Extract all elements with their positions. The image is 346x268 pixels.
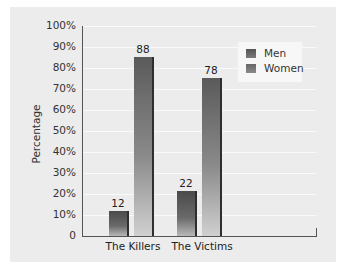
legend-item-women: Women [246, 62, 304, 74]
gridline-50 [82, 131, 316, 132]
y-tick-20: 20% [36, 187, 76, 199]
legend-swatch-men [246, 49, 256, 58]
legend-item-men: Men [246, 47, 286, 59]
y-axis-label: Percentage [30, 94, 42, 174]
label-killers-women: 88 [128, 43, 158, 55]
gridline-100 [82, 26, 316, 27]
y-tick-80: 80% [36, 61, 76, 73]
y-tick-40: 40% [36, 145, 76, 157]
bar-killers-men [109, 211, 129, 236]
category-killers: The Killers [98, 240, 168, 252]
y-tick-70: 70% [36, 82, 76, 94]
bar-victims-women [202, 78, 222, 236]
gridline-20 [82, 194, 316, 195]
y-tick-100: 100% [36, 19, 76, 31]
x-axis-end-tick [316, 228, 317, 237]
y-axis [82, 26, 83, 237]
y-tick-50: 50% [36, 124, 76, 136]
y-tick-10: 10% [36, 208, 76, 220]
legend-swatch-women [246, 64, 256, 73]
category-victims: The Victims [167, 240, 237, 252]
y-tick-0: 0 [36, 229, 76, 241]
y-tick-90: 90% [36, 40, 76, 52]
gridline-70 [82, 89, 316, 90]
label-victims-women: 78 [196, 64, 226, 76]
gridline-60 [82, 110, 316, 111]
label-victims-men: 22 [171, 177, 201, 189]
y-tick-30: 30% [36, 166, 76, 178]
x-axis [82, 236, 317, 237]
legend: Men Women [238, 42, 302, 82]
bar-victims-men [177, 191, 197, 236]
legend-label-men: Men [264, 47, 286, 59]
legend-label-women: Women [264, 62, 304, 74]
bar-killers-women [134, 57, 154, 236]
gridline-40 [82, 152, 316, 153]
gridline-30 [82, 173, 316, 174]
y-tick-60: 60% [36, 103, 76, 115]
label-killers-men: 12 [103, 197, 133, 209]
